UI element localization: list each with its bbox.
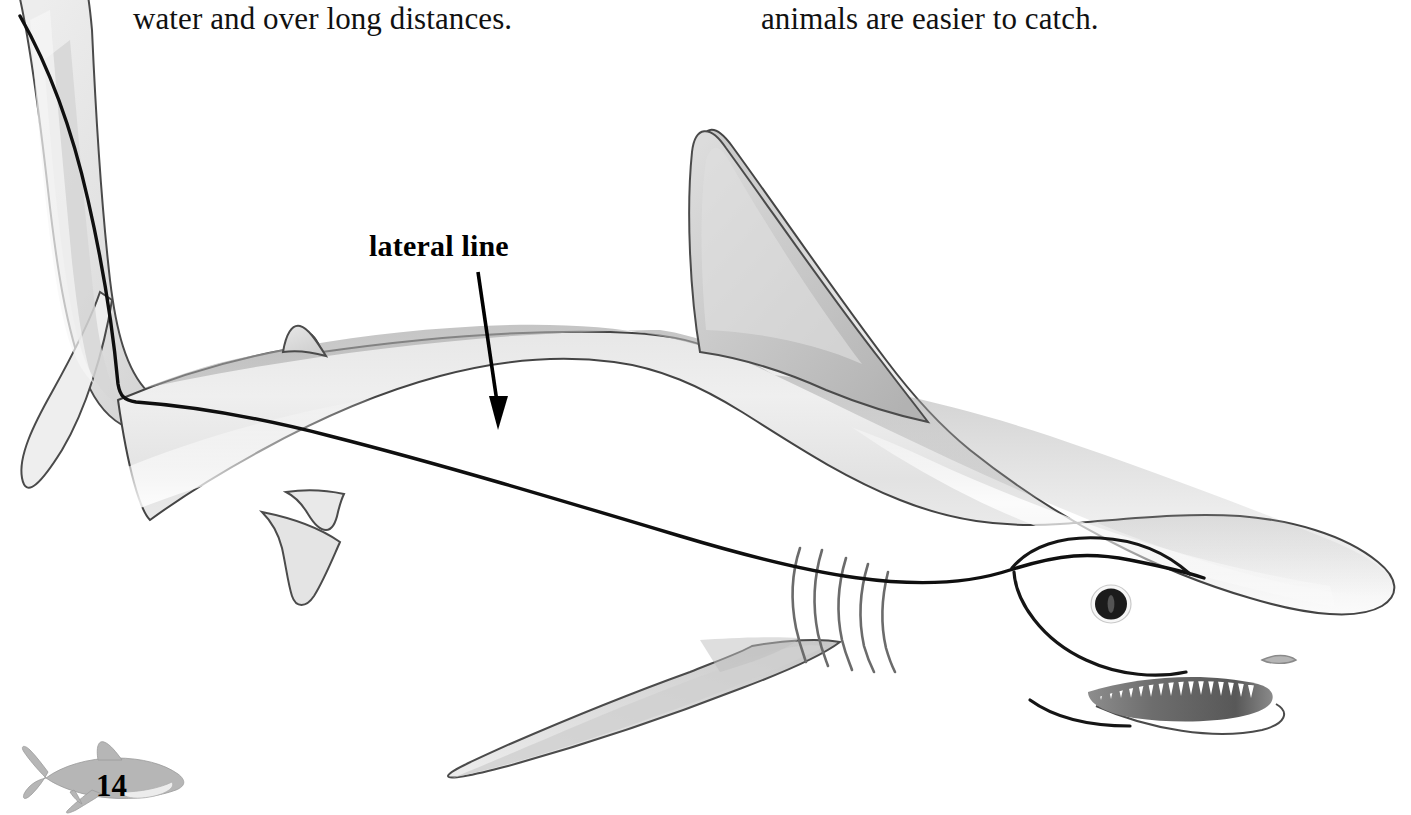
lateral-line [20,16,1204,583]
tooth [1148,682,1154,697]
tooth [1218,681,1224,696]
jaw-line [1030,700,1130,726]
head-details-group [1012,538,1296,734]
decor-shark-tail [22,746,48,798]
tooth [1138,683,1144,697]
shark-body [118,130,1394,615]
body-flank-light-band [120,380,1340,626]
lateral-line-label: lateral line [369,229,509,263]
tooth [1158,681,1164,696]
pelvic-fin [286,490,344,530]
tooth [1208,680,1214,695]
mouth-group [1088,677,1273,722]
head-crease-lower [1014,572,1186,675]
eye [1095,589,1127,620]
caudal-fin-group [18,0,230,488]
pectoral-fin-shading [452,645,826,778]
decor-shark-dorsal-fin [97,742,122,760]
body-dorsal-shading [110,325,1400,597]
tooth [1098,688,1104,700]
tooth [1198,680,1204,695]
first-dorsal-fin-highlight [702,148,863,364]
tooth [1238,683,1244,697]
lateral-line-arrow [478,272,508,430]
eye-group [1091,585,1131,623]
pectoral-fin-root-shadow [700,637,800,672]
pectoral-fin [448,640,840,778]
caudal-fin-highlight [30,10,94,384]
teeth-group [1098,680,1254,700]
tooth [1228,682,1234,696]
head-crease-upper [1012,538,1190,574]
page-number: 14 [96,768,127,804]
body-belly-light [150,397,1360,640]
caudal-fin-upper-lobe [18,0,230,448]
caudal-fin-inner-shadow [44,40,126,410]
textbook-page: water and over long distances. animals a… [0,0,1411,815]
first-dorsal-fin [689,131,928,422]
mouth [1088,677,1273,722]
gill-slits-group [793,548,895,672]
body-text-left-column: water and over long distances. [133,2,512,36]
lateral-line-group [20,16,1204,583]
gill-slit-5 [882,572,895,672]
nostril [1262,656,1296,664]
shark-body-group [110,130,1400,640]
eye-socket-ring [1091,585,1131,623]
ventral-fins-group [262,490,344,605]
caudal-fin-lower-lobe [21,292,112,488]
callout-arrow-svg [0,0,1411,815]
gill-slit-4 [861,564,874,672]
tooth [1248,685,1254,698]
snout-lower-contour [1096,704,1284,734]
tooth [1118,685,1124,698]
tooth [1178,680,1184,696]
anal-fin [262,512,340,605]
gill-slit-2 [815,550,828,666]
gill-slit-3 [839,558,852,670]
tooth [1128,684,1134,698]
second-dorsal-fin [283,326,326,356]
eye-pupil-slit [1108,595,1115,613]
body-text-right-column: animals are easier to catch. [761,2,1099,36]
arrow-head-icon [489,396,508,430]
tooth [1108,686,1114,699]
gill-slit-1 [793,548,806,662]
tooth [1168,681,1174,696]
shark-illustration [0,0,1411,815]
tooth [1188,680,1194,695]
arrow-shaft [478,272,497,402]
